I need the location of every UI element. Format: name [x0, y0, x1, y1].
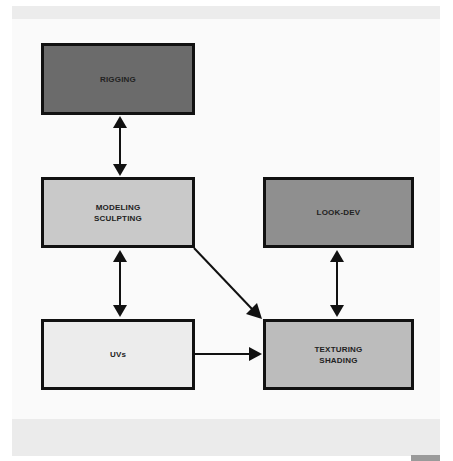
node-texturing-shading: TEXTURING SHADING — [263, 319, 414, 390]
arrow-rigging-modeling — [113, 116, 127, 176]
node-modeling-sculpting: MODELING SCULPTING — [41, 177, 195, 248]
arrow-uvs-texturing — [195, 347, 262, 361]
node-label-line2: SHADING — [314, 355, 362, 366]
node-look-dev: LOOK-DEV — [263, 177, 414, 248]
arrow-lookdev-texturing — [330, 250, 344, 317]
node-label-line1: TEXTURING — [314, 344, 362, 355]
node-label: RIGGING — [100, 75, 136, 84]
node-label-line1: MODELING — [94, 202, 142, 213]
node-label: LOOK-DEV — [317, 208, 361, 217]
node-label-line2: SCULPTING — [94, 213, 142, 224]
arrow-modeling-texturing — [194, 248, 262, 319]
node-uvs: UVs — [41, 319, 195, 390]
node-label: UVs — [110, 350, 126, 359]
arrow-modeling-uvs — [113, 250, 127, 317]
node-rigging: RIGGING — [41, 43, 195, 115]
